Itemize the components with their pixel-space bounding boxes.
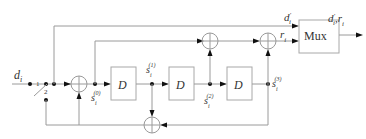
- mux-label: Mux: [304, 29, 327, 43]
- arrow-to-mux-top: [292, 24, 299, 29]
- delay-2-label: D: [175, 78, 185, 92]
- arrow-to-d1: [104, 82, 111, 87]
- switch-pos2-label: 2: [44, 88, 48, 96]
- delay-3-label: D: [233, 78, 243, 92]
- input-node: [28, 82, 32, 86]
- turbo-encoder-diagram: di 1 2 d'i si(0) D si(1) D si(2): [0, 0, 366, 139]
- arrow-s2-to-xor-p1: [208, 49, 213, 56]
- s0-label: si(0): [91, 90, 101, 106]
- arrow-to-d2: [162, 82, 169, 87]
- arrow-s3-to-xor-bottom: [160, 123, 167, 128]
- arrow-s3-to-xor-p2: [266, 49, 271, 56]
- s2-label: si(2): [204, 93, 214, 109]
- xor-bottom: [144, 117, 160, 133]
- s1-label: si(1): [146, 62, 156, 78]
- s3-label: si(3): [272, 76, 282, 92]
- xor-parity-2: [260, 33, 276, 49]
- arrow-feedback-to-xor: [77, 92, 82, 99]
- systematic-label: d'i: [284, 11, 292, 26]
- arrow-to-d3: [220, 82, 227, 87]
- delay-1-label: D: [117, 78, 127, 92]
- arrow-to-xor-input: [64, 82, 71, 87]
- parity-label: ri: [280, 28, 286, 44]
- arrow-to-xor-bottom: [150, 110, 155, 117]
- arrow-to-xor-p2: [253, 39, 260, 44]
- xor-feedback: [71, 76, 87, 92]
- xor-parity-1: [202, 33, 218, 49]
- input-label: di: [14, 68, 22, 84]
- arrow-to-mux-parity: [292, 39, 299, 44]
- output-arrow: [356, 33, 363, 38]
- switch-pos1-label: 1: [36, 80, 40, 88]
